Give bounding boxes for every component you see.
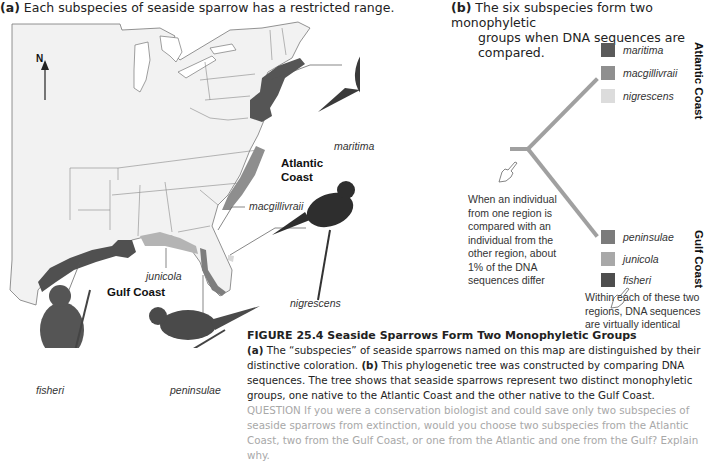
- panel-b-label: (b): [451, 0, 471, 15]
- swatch-maritima: [601, 43, 615, 57]
- legend-junicola: junicola: [601, 252, 659, 266]
- panel-a-title-text: Each subspecies of seaside sparrow has a…: [24, 0, 395, 15]
- panel-a-label: (a): [0, 0, 20, 15]
- swatch-macgillivraii: [601, 66, 615, 80]
- legend-nigrescens: nigrescens: [601, 89, 674, 103]
- legend-label-fisheri: fisheri: [623, 274, 651, 286]
- label-maritima: maritima: [334, 140, 374, 152]
- note-line: individual from the: [468, 234, 557, 248]
- bird-nigrescens-image: [272, 181, 358, 300]
- panel-b-title: (b) The six subspecies form two monophyl…: [451, 0, 710, 60]
- caption-a-label: (a): [247, 344, 263, 356]
- legend-label-macgillivraii: macgillivraii: [623, 67, 677, 79]
- legend-label-maritima: maritima: [623, 44, 663, 56]
- legend-label-peninsulae: peninsulae: [623, 231, 674, 243]
- label-fisheri: fisheri: [36, 384, 64, 396]
- legend-peninsulae: peninsulae: [601, 230, 674, 244]
- note-line: regions, DNA sequences: [585, 305, 701, 319]
- us-land: [10, 22, 310, 305]
- label-nigrescens: nigrescens: [290, 297, 341, 309]
- swatch-nigrescens: [601, 89, 615, 103]
- note-between-regions: When an individual from one region is co…: [468, 193, 557, 288]
- panel-b-title-line-2: groups when DNA sequences are compared.: [451, 30, 710, 60]
- legend-fisheri: fisheri: [601, 273, 651, 287]
- tree-atlantic-branch: [528, 80, 596, 149]
- note-line: 1% of the DNA: [468, 261, 557, 275]
- panel-b-title-line-1: The six subspecies form two monophyletic: [451, 0, 653, 30]
- question-text: If you were a conservation biologist and…: [247, 404, 698, 461]
- swatch-junicola: [601, 252, 615, 266]
- pointing-hand-icon: [496, 160, 518, 184]
- bird-maritima-image: [318, 22, 360, 112]
- note-line: When an individual: [468, 193, 557, 207]
- figure-title: FIGURE 25.4 Seaside Sparrows Form Two Mo…: [247, 328, 707, 343]
- legend-label-nigrescens: nigrescens: [623, 90, 674, 102]
- note-line: from one region is: [468, 207, 557, 221]
- figure-caption: FIGURE 25.4 Seaside Sparrows Form Two Mo…: [247, 328, 707, 463]
- swatch-fisheri: [601, 273, 615, 287]
- question-label: QUESTION: [247, 404, 301, 416]
- swatch-peninsulae: [601, 230, 615, 244]
- note-line: other region, about: [468, 247, 557, 261]
- label-junicola: junicola: [146, 270, 182, 282]
- atlantic-coast-map-label: Atlantic Coast: [281, 156, 323, 184]
- note-line: sequences differ: [468, 274, 557, 288]
- note-line: Within each of these two: [585, 291, 701, 305]
- bird-peninsulae-image: [149, 306, 260, 348]
- bird-fisheri-image: [40, 285, 90, 348]
- label-macgillivraii: macgillivraii: [249, 200, 303, 212]
- atlantic-line-2: Coast: [281, 170, 323, 184]
- legend-label-junicola: junicola: [623, 253, 659, 265]
- legend-macgillivraii: macgillivraii: [601, 66, 677, 80]
- range-nigrescens: [228, 255, 234, 262]
- caption-b-label: (b): [361, 359, 378, 371]
- caption-body: (a) The “subspecies” of seaside sparrows…: [247, 343, 707, 463]
- legend-maritima: maritima: [601, 43, 663, 57]
- gulf-coast-heading: Gulf Coast: [693, 230, 705, 288]
- atlantic-coast-heading: Atlantic Coast: [693, 42, 705, 119]
- atlantic-line-1: Atlantic: [281, 156, 323, 170]
- gulf-coast-map-label: Gulf Coast: [107, 285, 165, 299]
- note-within-regions: Within each of these two regions, DNA se…: [585, 291, 701, 332]
- note-line: compared with an: [468, 220, 557, 234]
- north-label: N: [36, 52, 43, 66]
- panel-a-title: (a) Each subspecies of seaside sparrow h…: [0, 0, 394, 15]
- label-peninsulae: peninsulae: [170, 384, 221, 396]
